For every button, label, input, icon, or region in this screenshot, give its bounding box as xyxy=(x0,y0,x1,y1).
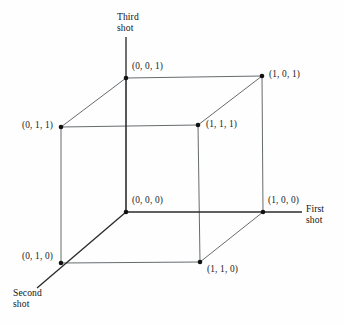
axis-second-shot-line xyxy=(37,212,126,288)
edge-101-100 xyxy=(262,76,263,212)
vertex-dot-001 xyxy=(124,76,129,81)
edge-010-110 xyxy=(61,262,200,263)
vertex-label-010: (0, 1, 0) xyxy=(0,251,53,262)
axis-label-first-shot-line2: shot xyxy=(306,214,324,225)
vertex-dot-010 xyxy=(59,261,64,266)
axis-label-third-shot: Third shot xyxy=(117,11,139,34)
cube-figure xyxy=(0,0,343,324)
axis-label-third-shot-line1: Third xyxy=(117,11,139,22)
edge-100-110 xyxy=(200,212,263,262)
edge-011-111 xyxy=(61,125,198,127)
vertex-label-001: (0, 0, 1) xyxy=(132,61,163,72)
vertex-label-111: (1, 1, 1) xyxy=(206,119,237,130)
vertex-label-100: (1, 0, 0) xyxy=(268,195,299,206)
vertex-dot-101 xyxy=(260,74,265,79)
vertex-label-011: (0, 1, 1) xyxy=(0,120,53,131)
vertex-dot-111 xyxy=(196,123,201,128)
axis-label-third-shot-line2: shot xyxy=(117,22,139,33)
cube-edges xyxy=(61,76,263,263)
vertex-label-000: (0, 0, 0) xyxy=(132,195,163,206)
vertex-dot-100 xyxy=(261,210,266,215)
vertex-label-110: (1, 1, 0) xyxy=(207,264,238,275)
edge-001-011 xyxy=(61,78,126,127)
vertex-label-101: (1, 0, 1) xyxy=(269,69,300,80)
edge-111-110 xyxy=(198,125,200,262)
vertex-dot-000 xyxy=(124,210,129,215)
axis-label-second-shot: Second shot xyxy=(13,287,42,310)
vertex-dot-011 xyxy=(59,125,64,130)
axis-label-first-shot: First shot xyxy=(306,203,324,226)
vertex-dot-110 xyxy=(198,260,203,265)
diagram-canvas: (0, 0, 1) (1, 0, 1) (0, 1, 1) (1, 1, 1) … xyxy=(0,0,343,324)
edge-001-101 xyxy=(126,76,262,78)
edge-101-111 xyxy=(198,76,262,125)
axis-label-second-shot-line1: Second xyxy=(13,287,42,298)
axis-label-second-shot-line2: shot xyxy=(13,298,42,309)
cube-vertices xyxy=(59,74,266,266)
axis-label-first-shot-line1: First xyxy=(306,203,324,214)
